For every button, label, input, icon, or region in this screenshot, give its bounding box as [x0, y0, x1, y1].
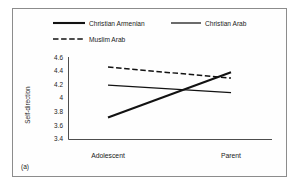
y-tick-label: 3.4	[54, 135, 63, 142]
data-series-group	[108, 67, 231, 118]
y-tick-label: 4.4	[54, 67, 63, 74]
legend-label-christian-arab: Christian Arab	[205, 20, 247, 27]
y-axis-tick-labels: 4.6 4.4 4.2 4 3.8 3.6 3.4	[54, 54, 63, 143]
series-line-christian-arab	[108, 85, 231, 93]
panel-label: (a)	[21, 163, 29, 171]
legend-label-muslim-arab: Muslim Arab	[89, 36, 126, 43]
legend-label-christian-armenian: Christian Armenian	[89, 20, 145, 27]
y-tick-label: 3.8	[54, 108, 63, 115]
y-tick-label: 3.6	[54, 122, 63, 129]
chart-legend: Christian Armenian Christian Arab Muslim…	[53, 20, 247, 43]
figure-panel: Christian Armenian Christian Arab Muslim…	[12, 8, 287, 177]
x-axis-tick-labels: Adolescent Parent	[91, 152, 241, 159]
y-axis-title: Self-direction	[24, 86, 31, 124]
y-tick-label: 4.6	[54, 54, 63, 61]
y-tick-label: 4	[59, 94, 63, 101]
series-line-christian-armenian	[108, 72, 231, 117]
series-line-muslim-arab	[108, 67, 231, 78]
line-chart: Christian Armenian Christian Arab Muslim…	[13, 9, 288, 178]
y-tick-label: 4.2	[54, 81, 63, 88]
x-tick-label-parent: Parent	[221, 152, 241, 159]
x-tick-label-adolescent: Adolescent	[91, 152, 125, 159]
